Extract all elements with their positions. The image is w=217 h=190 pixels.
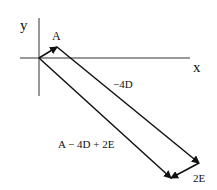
- vector-minus-4d-label: −4D: [113, 78, 133, 90]
- vector-diagram: y x A −4D 2E A − 4D + 2E: [0, 0, 217, 190]
- resultant-vector-arrow: [39, 58, 171, 178]
- resultant-vector-label: A − 4D + 2E: [58, 138, 115, 150]
- y-axis-label: y: [20, 17, 28, 33]
- vector-2e-label: 2E: [193, 172, 206, 184]
- vector-a-label: A: [52, 29, 61, 43]
- vector-a-arrow: [39, 47, 57, 58]
- x-axis-label: x: [193, 59, 201, 75]
